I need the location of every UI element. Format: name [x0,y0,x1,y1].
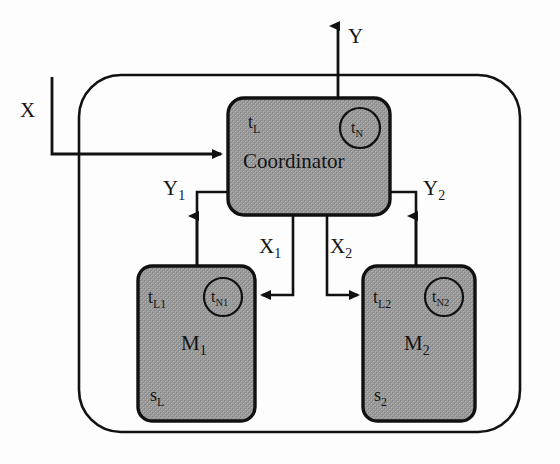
module-1-tn1-label: tN1 [211,289,228,309]
module-1-tl-label: tL1 [148,288,166,310]
coordinator-tl-sub: L [253,122,260,136]
label-y2-base: Y [423,176,438,200]
coordinator-tn-label: tN [351,120,363,140]
coordinator-tn-sub: N [355,128,363,139]
module-1-state-base: s [150,385,157,405]
coordinator-name-label: Coordinator [243,151,344,172]
module-2-name-base: M [404,331,423,355]
label-x-input: X [20,100,35,121]
label-y1-base: Y [163,176,178,200]
module-2-tn2-label: tN2 [432,289,449,309]
label-x2-sub: 2 [345,246,352,261]
module-2-state-sub: 2 [381,395,387,409]
label-y-output: Y [348,26,363,47]
label-x1: X1 [259,236,281,261]
signal-x-input-line [52,77,221,154]
diagram-canvas [0,0,560,464]
label-y2: Y2 [423,178,445,203]
module-1-name-base: M [181,331,200,355]
module-1-name-sub: 1 [200,343,207,358]
module-2-tl-label: tL2 [373,288,391,310]
module-2-tn2-sub: N2 [436,297,449,308]
label-x1-base: X [259,234,274,258]
coordinator-tl-label: tL [248,113,260,135]
module-2-tl-sub: L2 [378,297,391,311]
label-y1-sub: 1 [178,188,185,203]
module-2-name-sub: 2 [423,343,430,358]
label-x2: X2 [330,236,352,261]
module-1-tl-sub: L1 [153,297,166,311]
label-x1-sub: 1 [274,246,281,261]
block-diagram-root: X Y Y1 Y2 X1 X2 tL tN Coordinator tL1 tN… [0,0,560,464]
module-1-name-label: M1 [181,333,207,358]
module-1-state-label: sL [150,386,164,408]
module-1-state-sub: L [157,395,164,409]
label-x2-base: X [330,234,345,258]
module-2-name-label: M2 [404,333,430,358]
module-2-state-label: s2 [374,386,387,408]
label-y1: Y1 [163,178,185,203]
module-1-tn1-sub: N1 [215,297,228,308]
module-2-state-base: s [374,385,381,405]
label-y2-sub: 2 [438,188,445,203]
